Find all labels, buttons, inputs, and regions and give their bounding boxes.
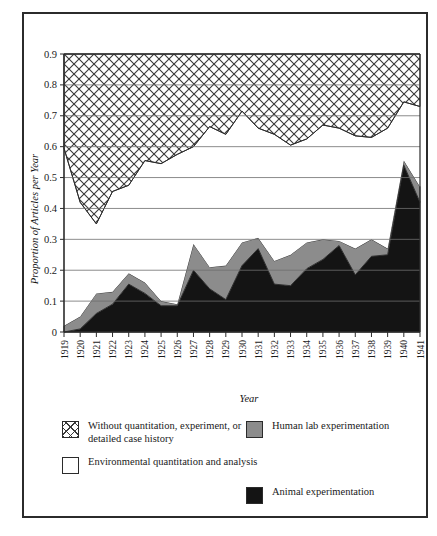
legend-label-animal-experimentation: Animal experimentation: [272, 486, 374, 499]
x-tick-label: 1919: [60, 340, 70, 359]
x-tick-label: 1920: [76, 340, 86, 359]
y-tick-label: 0.9: [44, 49, 57, 60]
x-tick-label: 1921: [92, 340, 102, 359]
x-tick-label: 1932: [270, 340, 280, 359]
y-tick-label: 0.8: [44, 79, 57, 90]
y-tick-label: 0.1: [44, 296, 57, 307]
legend-item-animal-experimentation[interactable]: Animal experimentation: [246, 486, 426, 504]
caption-strip: [0, 0, 437, 10]
x-tick-label: 1937: [351, 340, 361, 359]
x-tick-label: 1923: [124, 340, 134, 359]
x-tick-label: 1936: [335, 340, 345, 359]
chart-area: 00.10.20.30.40.50.60.70.80.9 19191920192…: [24, 14, 430, 414]
y-tick-label: 0.2: [44, 265, 57, 276]
y-tick-label: 0.7: [44, 110, 57, 121]
legend-column-left: Without quantitation, experiment, or det…: [62, 420, 262, 485]
legend-column-right: Human lab experimentation Animal experim…: [246, 420, 426, 515]
x-tick-label: 1934: [302, 340, 312, 359]
x-tick-label: 1931: [254, 340, 264, 359]
legend-item-without-quantitation[interactable]: Without quantitation, experiment, or det…: [62, 420, 262, 445]
y-axis-title: Proportion of Articles per Year: [29, 153, 40, 285]
plot-group: [64, 54, 420, 332]
legend-item-environmental-quantitation[interactable]: Environmental quantitation and analysis: [62, 456, 262, 474]
x-tick-label: 1926: [173, 340, 183, 359]
y-tick-label: 0.5: [44, 172, 57, 183]
y-tick-label: 0.3: [44, 234, 57, 245]
y-tick-label: 0: [52, 327, 57, 338]
x-tick-label: 1935: [318, 340, 328, 359]
x-axis-title: Year: [240, 393, 260, 404]
black-swatch-icon: [246, 487, 263, 504]
x-tick-label: 1938: [367, 340, 377, 359]
chart-legend: Without quantitation, experiment, or det…: [24, 412, 430, 520]
legend-label-without-quantitation: Without quantitation, experiment, or det…: [88, 420, 262, 445]
x-tick-label: 1927: [189, 340, 199, 359]
legend-label-environmental-quantitation: Environmental quantitation and analysis: [88, 456, 257, 469]
x-tick-label: 1941: [416, 340, 426, 359]
legend-label-human-lab: Human lab experimentation: [272, 420, 389, 433]
white-swatch-icon: [62, 457, 79, 474]
x-tick-label: 1933: [286, 340, 296, 359]
legend-item-human-lab[interactable]: Human lab experimentation: [246, 420, 426, 438]
x-axis: 1919192019211922192319241925192619271928…: [60, 332, 426, 359]
y-axis: 00.10.20.30.40.50.60.70.80.9: [44, 49, 64, 338]
x-tick-label: 1929: [221, 340, 231, 359]
y-tick-label: 0.4: [44, 203, 58, 214]
crosshatch-swatch-icon: [62, 421, 79, 438]
x-tick-label: 1924: [140, 340, 150, 359]
x-tick-label: 1922: [108, 340, 118, 359]
gray-swatch-icon: [246, 421, 263, 438]
x-tick-label: 1930: [238, 340, 248, 359]
figure-frame: 00.10.20.30.40.50.60.70.80.9 19191920192…: [22, 12, 428, 518]
y-tick-label: 0.6: [44, 141, 57, 152]
x-tick-label: 1939: [383, 340, 393, 359]
x-tick-label: 1940: [399, 340, 409, 359]
stacked-area-chart: 00.10.20.30.40.50.60.70.80.9 19191920192…: [24, 14, 430, 414]
x-tick-label: 1925: [157, 340, 167, 359]
x-tick-label: 1928: [205, 340, 215, 359]
